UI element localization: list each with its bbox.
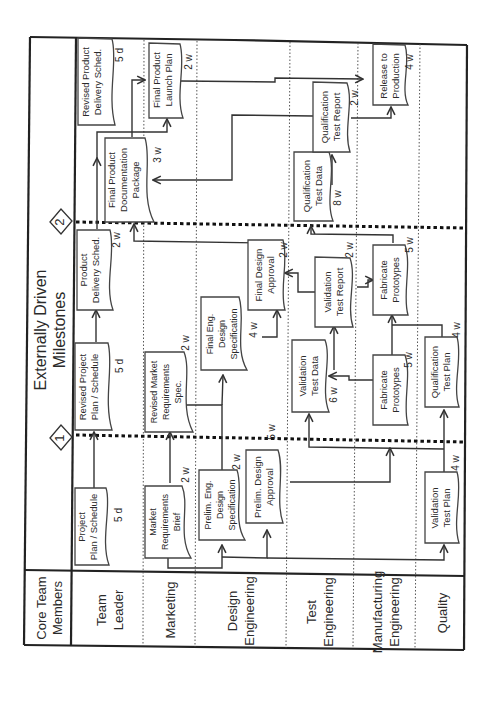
svg-text:Design: Design: [217, 320, 227, 348]
svg-text:Qualification: Qualification: [319, 91, 330, 143]
svg-text:Product: Product: [78, 253, 89, 286]
svg-text:2 w: 2 w: [278, 241, 289, 257]
svg-text:Prototypes: Prototypes: [390, 257, 401, 303]
svg-text:Test Report: Test Report: [334, 267, 345, 316]
lane-label-team-leader: Team Leader: [94, 589, 126, 630]
svg-text:5 w: 5 w: [266, 423, 277, 439]
task-revised-project-plan[interactable]: Revised Project Plan / Schedule 5 d: [75, 343, 125, 430]
svg-text:Leader: Leader: [111, 589, 126, 630]
process-diagram: 1 2 Externally Driven Milestones Core Te…: [0, 0, 496, 713]
svg-text:Spec.: Spec.: [173, 380, 183, 403]
svg-text:Revised Project: Revised Project: [77, 353, 88, 420]
task-market-requirements-brief[interactable]: Market Requirements Brief 2 w: [145, 466, 191, 558]
svg-text:Final Product: Final Product: [106, 152, 117, 208]
svg-text:4 w: 4 w: [404, 53, 415, 69]
svg-text:Test Plan: Test Plan: [441, 488, 452, 527]
svg-text:Design: Design: [225, 591, 240, 631]
svg-text:Fabricate: Fabricate: [378, 260, 389, 300]
svg-text:1: 1: [52, 434, 67, 441]
task-validation-test-report[interactable]: Validation Test Report 2 w: [315, 241, 355, 327]
task-fabricate-prototypes-1[interactable]: Fabricate Prototypes 5 w: [373, 351, 414, 425]
svg-text:Final Eng.: Final Eng.: [205, 314, 215, 355]
svg-text:Engineering: Engineering: [321, 577, 336, 646]
task-release-to-production[interactable]: Release to Production 4 w: [373, 44, 415, 105]
svg-text:2 w: 2 w: [344, 241, 355, 257]
svg-text:4 w: 4 w: [451, 321, 462, 337]
core-team-members-header: Core Team Members: [34, 576, 65, 639]
svg-text:Test Data: Test Data: [313, 165, 324, 206]
svg-text:Validation: Validation: [322, 271, 333, 312]
svg-text:2 w: 2 w: [180, 334, 191, 350]
svg-text:Launch Plan: Launch Plan: [163, 54, 174, 107]
svg-text:4 w: 4 w: [248, 321, 259, 337]
svg-text:Engineering: Engineering: [387, 577, 402, 646]
milestone-1-diamond: 1: [50, 425, 72, 450]
lane-label-test-engineering: Test Engineering: [304, 577, 336, 646]
svg-text:Core Team: Core Team: [34, 576, 49, 639]
svg-text:Test: Test: [304, 600, 319, 624]
task-revised-product-delivery-sched[interactable]: Revised Product Delivery Sched. 5 d: [78, 38, 125, 125]
svg-text:6 w: 6 w: [328, 386, 339, 402]
task-revised-market-req-spec[interactable]: Revised Market Requirements Spec. 2 w: [145, 334, 193, 432]
task-final-design-approval[interactable]: Final Design Approval 2 w: [248, 240, 289, 310]
svg-text:Final Design: Final Design: [253, 249, 264, 302]
svg-text:Requirements: Requirements: [160, 493, 170, 550]
task-project-plan[interactable]: Project Plan / Schedule 5 d: [75, 488, 124, 565]
svg-text:Market: Market: [148, 508, 158, 536]
svg-text:Specification: Specification: [227, 479, 237, 530]
svg-text:5 w: 5 w: [403, 351, 414, 367]
svg-text:Prototypes: Prototypes: [390, 367, 401, 413]
svg-text:Delivery Sched.: Delivery Sched.: [92, 49, 103, 116]
svg-text:2: 2: [52, 218, 67, 225]
svg-text:4 w: 4 w: [450, 454, 461, 470]
svg-text:5 w: 5 w: [404, 236, 415, 252]
svg-text:Test Report: Test Report: [331, 92, 342, 141]
task-qualification-test-report[interactable]: Qualification Test Report 2 w: [313, 82, 360, 152]
svg-text:Quality: Quality: [435, 592, 450, 633]
svg-text:Validation: Validation: [429, 487, 440, 528]
task-validation-test-plan[interactable]: Validation Test Plan 4 w: [425, 454, 461, 543]
svg-text:Validation: Validation: [297, 355, 308, 396]
task-qualification-test-plan[interactable]: Qualification Test Plan 4 w: [425, 321, 462, 407]
svg-text:Prelim. Design: Prelim. Design: [252, 456, 263, 518]
svg-text:2 w: 2 w: [349, 89, 360, 105]
svg-text:5 d: 5 d: [114, 359, 125, 373]
svg-text:Prelim. Eng.: Prelim. Eng.: [203, 480, 213, 529]
svg-text:Milestones: Milestones: [51, 292, 68, 368]
svg-text:Package: Package: [130, 162, 141, 199]
svg-text:2 w: 2 w: [183, 53, 194, 69]
svg-text:Externally Driven: Externally Driven: [32, 270, 49, 391]
svg-text:5 d: 5 d: [113, 508, 124, 522]
svg-text:Release to: Release to: [378, 53, 389, 98]
core-team-row-divider: [24, 570, 465, 576]
svg-text:Manufacturing: Manufacturing: [370, 571, 385, 653]
svg-text:Requirements: Requirements: [161, 363, 171, 420]
task-product-delivery-sched[interactable]: Product Delivery Sched. 2 w: [77, 230, 122, 310]
svg-text:Approval: Approval: [265, 256, 276, 294]
lane-label-marketing: Marketing: [163, 581, 178, 638]
svg-text:Qualification: Qualification: [429, 346, 440, 398]
svg-text:Final Product: Final Product: [151, 52, 162, 108]
svg-text:Delivery Sched.: Delivery Sched.: [90, 237, 101, 304]
svg-text:Revised Market: Revised Market: [149, 360, 159, 423]
lane-label-design-engineering: Design Engineering: [225, 576, 257, 645]
svg-text:Engineering: Engineering: [242, 576, 257, 645]
svg-text:Brief: Brief: [172, 512, 182, 531]
lane-label-quality: Quality: [435, 592, 450, 633]
milestone-2-diamond: 2: [50, 209, 72, 234]
svg-text:2 w: 2 w: [231, 453, 242, 469]
svg-text:Test Data: Test Data: [309, 355, 320, 396]
task-fabricate-prototypes-2[interactable]: Fabricate Prototypes 5 w: [373, 236, 415, 315]
svg-text:Specification: Specification: [229, 308, 239, 359]
svg-text:Fabricate: Fabricate: [378, 370, 389, 410]
svg-text:Revised Product: Revised Product: [80, 47, 91, 117]
svg-text:Production: Production: [390, 53, 401, 98]
svg-text:2 w: 2 w: [111, 231, 122, 247]
svg-text:Project: Project: [76, 512, 87, 542]
svg-text:Plan / Schedule: Plan / Schedule: [88, 494, 99, 561]
svg-text:Team: Team: [94, 594, 109, 626]
task-qualification-test-data[interactable]: Qualification Test Data 8 w: [294, 152, 343, 221]
svg-text:2 w: 2 w: [180, 466, 191, 482]
lane-label-manufacturing-engineering: Manufacturing Engineering: [370, 571, 402, 653]
svg-text:Design: Design: [215, 491, 225, 519]
